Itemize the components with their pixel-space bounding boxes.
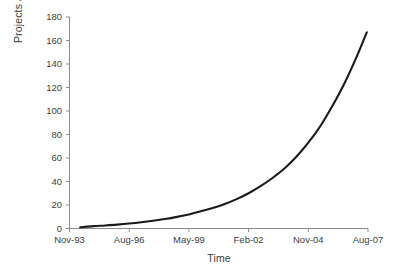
x-axis-tick-marks [70, 229, 369, 233]
chart-figure: Projects added 020406080100120140160180 … [0, 0, 407, 274]
y-axis-tick-marks [66, 17, 70, 229]
plot-area [0, 0, 407, 274]
x-axis-title: Time [69, 252, 369, 264]
data-series-line [80, 32, 367, 227]
